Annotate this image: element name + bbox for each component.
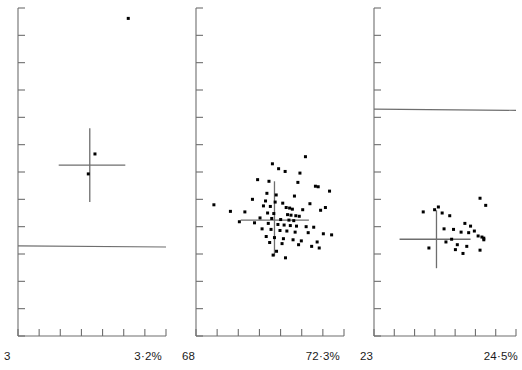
data-point [288, 207, 291, 210]
data-point [314, 185, 317, 188]
data-point [454, 248, 457, 251]
panel-2-plot [178, 0, 350, 348]
data-point [291, 208, 294, 211]
data-point [265, 192, 268, 195]
data-point [450, 238, 453, 241]
data-point [460, 231, 463, 234]
data-point [264, 199, 267, 202]
data-point [473, 230, 476, 233]
data-point [281, 202, 284, 205]
data-point [292, 219, 295, 222]
data-point [304, 155, 307, 158]
data-point [272, 212, 275, 215]
data-point [282, 237, 285, 240]
data-point [270, 217, 273, 220]
data-point [287, 219, 290, 222]
data-point [276, 223, 279, 226]
data-point [296, 181, 299, 184]
data-point [297, 243, 300, 246]
data-point [273, 236, 276, 239]
panel-2-x-max-label: 72·3% [270, 350, 340, 362]
data-point [272, 254, 275, 257]
data-point [330, 233, 333, 236]
data-point [463, 222, 466, 225]
data-point [265, 235, 268, 238]
data-point [274, 201, 277, 204]
data-point [427, 246, 430, 249]
data-point-group [87, 17, 130, 176]
data-point [301, 208, 304, 211]
data-point [262, 204, 265, 207]
data-point [444, 240, 447, 243]
panel-1-x-min-label: 3 [4, 350, 11, 362]
data-point [300, 239, 303, 242]
data-point [479, 249, 482, 252]
data-point [212, 203, 215, 206]
scatter-panel-1: 3 3·2% [0, 0, 172, 370]
data-point [317, 185, 320, 188]
data-point [292, 238, 295, 241]
data-point [461, 252, 464, 255]
data-point [275, 193, 278, 196]
data-point-group [212, 155, 333, 259]
data-point [437, 205, 440, 208]
data-point [293, 195, 296, 198]
data-point [93, 152, 96, 155]
data-point [271, 162, 274, 165]
data-point [482, 238, 485, 241]
data-point [294, 214, 297, 217]
data-point [281, 242, 284, 245]
data-point [308, 202, 311, 205]
data-point [277, 167, 280, 170]
data-point [238, 220, 241, 223]
data-point [477, 234, 480, 237]
data-point [267, 222, 270, 225]
data-point [316, 240, 319, 243]
data-point [259, 216, 262, 219]
data-point [448, 214, 451, 217]
data-point [278, 229, 281, 232]
data-point [243, 210, 246, 213]
data-point [305, 225, 308, 228]
data-point [289, 224, 292, 227]
figure-root: 3 3·2% 68 72·3% 23 24·5% [0, 0, 522, 370]
data-point [465, 245, 468, 248]
data-point [251, 198, 254, 201]
reference-line [18, 246, 166, 247]
data-point [285, 230, 288, 233]
data-point [319, 209, 322, 212]
data-point [441, 212, 444, 215]
data-point [298, 172, 301, 175]
data-point [270, 228, 273, 231]
data-point [229, 210, 232, 213]
data-point [443, 227, 446, 230]
panel-3-plot [356, 0, 522, 348]
data-point [422, 210, 425, 213]
data-point [267, 180, 270, 183]
data-point [322, 232, 325, 235]
data-point [283, 224, 286, 227]
data-point [279, 218, 282, 221]
data-point [312, 226, 315, 229]
data-point [87, 172, 90, 175]
data-point [324, 206, 327, 209]
data-point [127, 17, 130, 20]
scatter-panel-2: 68 72·3% [178, 0, 350, 370]
data-point [253, 221, 256, 224]
scatter-panel-3: 23 24·5% [356, 0, 522, 370]
data-point [479, 197, 482, 200]
data-point [275, 250, 278, 253]
panel-1-x-max-label: 3·2% [100, 350, 162, 362]
data-point [285, 206, 288, 209]
data-point [328, 190, 331, 193]
data-point [310, 245, 313, 248]
data-point [295, 225, 298, 228]
data-point [467, 231, 470, 234]
data-point [261, 227, 264, 230]
data-point [469, 225, 472, 228]
data-point [294, 231, 297, 234]
data-point [269, 205, 272, 208]
panel-1-plot [0, 0, 172, 348]
data-point [433, 208, 436, 211]
data-point [298, 215, 301, 218]
